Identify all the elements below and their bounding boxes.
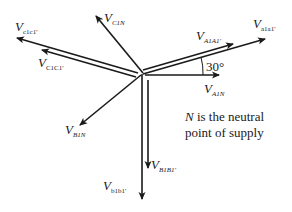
vector-v-b1b1-prime-small: Vb1b1' xyxy=(103,74,142,199)
svg-text:Vc1c1': Vc1c1' xyxy=(15,19,37,36)
label-v-c1c1-prime: C1C1' xyxy=(46,64,64,72)
svg-text:N is the neutral: N is the neutral xyxy=(184,109,264,124)
label-v-b1n: B1N xyxy=(73,131,86,139)
svg-text:Vb1b1': Vb1b1' xyxy=(103,178,126,195)
label-v-c1c1-prime-small: c1c1' xyxy=(23,28,37,36)
svg-text:VB1N: VB1N xyxy=(65,122,86,139)
vector-v-b1n: VB1N xyxy=(65,75,141,139)
svg-text:VB1B1': VB1B1' xyxy=(151,157,177,174)
svg-text:Va1a1': Va1a1' xyxy=(253,16,275,33)
vector-v-b1b1-prime: VB1B1' xyxy=(148,80,177,174)
angle-label: 30° xyxy=(206,59,224,74)
label-v-b1b1-prime: B1B1' xyxy=(159,166,177,174)
svg-text:VC1C1': VC1C1' xyxy=(38,55,64,72)
angle-30-degree: 30° xyxy=(201,57,224,75)
svg-text:VA1N: VA1N xyxy=(204,81,225,98)
label-v-c1n: C1N xyxy=(112,19,125,27)
vector-v-a1n: VA1N xyxy=(145,75,225,98)
note-line2: point of supply xyxy=(185,125,264,140)
label-v-a1a1-prime: A1A1' xyxy=(203,37,222,45)
svg-text:VA1A1': VA1A1' xyxy=(196,28,222,45)
vector-v-c1c1-prime: VC1C1' xyxy=(38,50,136,77)
svg-text:VC1N: VC1N xyxy=(104,10,125,27)
phasor-diagram: VC1N Vc1c1' VC1C1' VA1A1' Va1a1' VA1N 30… xyxy=(0,0,292,212)
label-v-a1a1-prime-small: a1a1' xyxy=(261,25,275,33)
neutral-note: N is the neutral point of supply xyxy=(184,109,264,140)
label-v-b1b1-prime-small: b1b1' xyxy=(111,187,126,195)
note-line1: is the neutral xyxy=(194,109,265,124)
vector-v-c1c1-prime-small: Vc1c1' xyxy=(15,19,138,73)
label-v-a1n: A1N xyxy=(211,90,225,98)
